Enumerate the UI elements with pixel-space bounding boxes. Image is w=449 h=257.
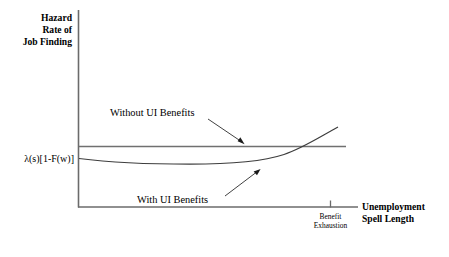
y-axis-title: Hazard Rate of Job Finding [23,12,73,47]
annotation-without-ui-benefits-leader [208,119,242,142]
x-axis-title-line-2: Spell Length [362,213,415,224]
annotation-with-ui-benefits-leader [225,171,258,196]
chart-canvas: Hazard Rate of Job Finding λ(s)[1-F(w)] … [0,0,449,257]
hazard-rate-figure: Hazard Rate of Job Finding λ(s)[1-F(w)] … [0,0,449,257]
y-axis-title-line-2: Rate of [42,24,72,35]
series-with-ui-benefits [79,127,338,164]
x-axis-title: Unemployment Spell Length [362,201,426,224]
y-axis-title-line-3: Job Finding [23,36,73,47]
x-tick-label-exhaustion: Exhaustion [314,221,348,230]
y-axis-title-line-1: Hazard [41,12,73,23]
annotation-without-ui-benefits-label: Without UI Benefits [110,107,194,118]
annotation-with-ui-benefits-label: With UI Benefits [137,194,208,205]
annotation-with-ui-benefits-arrowhead [254,169,261,175]
annotation-without-ui-benefits-arrowhead [238,137,245,144]
annotation-without-ui-benefits: Without UI Benefits [110,107,245,144]
y-tick-label-lambda: λ(s)[1-F(w)] [24,153,74,165]
x-tick-label-benefit: Benefit [320,212,343,221]
x-axis-title-line-1: Unemployment [362,201,426,212]
annotation-with-ui-benefits: With UI Benefits [137,169,261,205]
